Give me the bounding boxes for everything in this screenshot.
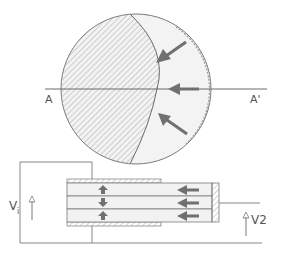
vi-subscript: i xyxy=(17,207,19,216)
vi-arrow-icon xyxy=(29,196,35,220)
input-voltage: V i xyxy=(9,196,35,220)
label-a: A xyxy=(45,93,53,106)
output-voltage: V2 xyxy=(243,212,267,236)
end-plate xyxy=(212,183,219,222)
v2-label: V2 xyxy=(251,213,267,227)
diagram-canvas: A A' xyxy=(0,0,283,259)
v2-arrow-icon xyxy=(243,212,249,236)
layered-device xyxy=(67,179,219,226)
bottom-electrode xyxy=(67,222,161,226)
top-electrode xyxy=(67,179,161,183)
label-a-prime: A' xyxy=(250,93,261,106)
cross-section: A A' xyxy=(40,14,267,164)
